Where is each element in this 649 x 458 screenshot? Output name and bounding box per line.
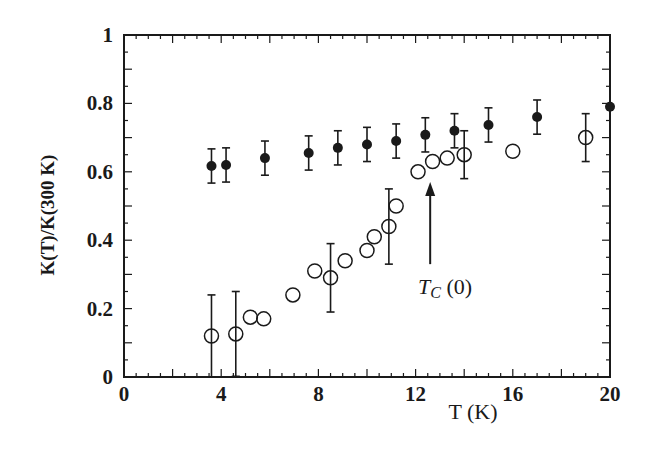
- data-point-filled: [362, 139, 372, 149]
- y-tick-label: 0.2: [87, 297, 113, 321]
- chart: 048121620 00.20.40.60.81 K(T)/K(300 K) T…: [0, 0, 649, 458]
- data-point-open: [457, 148, 471, 162]
- data-point-filled: [333, 143, 343, 153]
- y-tick-label: 0.4: [87, 228, 114, 252]
- x-tick-label: 0: [119, 382, 130, 406]
- data-point-open: [204, 329, 218, 343]
- data-point-filled: [420, 130, 430, 140]
- data-point-open: [229, 327, 243, 341]
- data-point-open: [324, 271, 338, 285]
- data-point-filled: [304, 148, 314, 158]
- tc-arrow-head-icon: [425, 182, 435, 196]
- data-point-filled: [605, 102, 615, 112]
- data-point-open: [440, 151, 454, 165]
- y-axis-title: K(T)/K(300 K): [37, 155, 59, 276]
- tc-label-tail: (0): [441, 274, 472, 299]
- data-point-filled: [221, 160, 231, 170]
- y-tick-label: 1: [103, 23, 114, 47]
- data-point-open: [338, 254, 352, 268]
- data-point-open: [389, 199, 403, 213]
- x-axis-title: T (K): [448, 399, 497, 424]
- data-point-filled: [206, 161, 216, 171]
- data-point-filled: [260, 153, 270, 163]
- y-tick-label: 0.6: [87, 160, 113, 184]
- data-point-open: [360, 243, 374, 257]
- data-point-open: [243, 310, 257, 324]
- x-tick-label: 4: [216, 382, 227, 406]
- data-point-filled: [532, 112, 542, 122]
- x-tick-label: 12: [405, 382, 426, 406]
- data-point-open: [426, 155, 440, 169]
- data-point-open: [506, 144, 520, 158]
- data-point-filled: [484, 120, 494, 130]
- data-point-filled: [449, 126, 459, 136]
- data-point-open: [579, 131, 593, 145]
- data-point-open: [367, 230, 381, 244]
- x-tick-label: 16: [502, 382, 523, 406]
- tc-label: TC (0): [418, 274, 472, 301]
- tc-label-sub: C: [430, 284, 441, 301]
- series-open-circles: [204, 114, 592, 377]
- x-tick-labels: 048121620: [119, 382, 621, 406]
- data-point-open: [411, 165, 425, 179]
- y-tick-label: 0: [103, 365, 114, 389]
- y-tick-labels: 00.20.40.60.81: [87, 23, 114, 389]
- data-point-filled: [391, 136, 401, 146]
- data-point-open: [382, 220, 396, 234]
- axis-ticks: [124, 35, 610, 377]
- data-point-open: [257, 312, 271, 326]
- data-point-open: [308, 264, 322, 278]
- x-tick-label: 8: [313, 382, 324, 406]
- data-point-open: [286, 288, 300, 302]
- plot-frame: [124, 35, 610, 377]
- y-tick-label: 0.8: [87, 91, 113, 115]
- x-tick-label: 20: [600, 382, 621, 406]
- tc-annotation: TC (0): [418, 182, 472, 301]
